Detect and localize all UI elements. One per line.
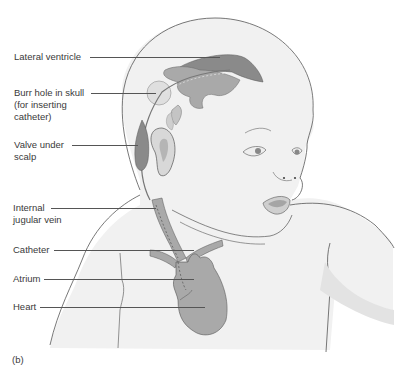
panel-label: (b) [12,354,24,366]
label-jugular-2: jugular vein [13,214,62,226]
label-burr-hole-2: (for inserting [14,99,67,111]
leader-atrium [44,279,194,280]
label-lateral-ventricle: Lateral ventricle [14,51,81,63]
leader-valve [72,145,138,146]
label-burr-hole-1: Burr hole in skull [14,87,84,99]
leader-lateral-ventricle [90,57,220,58]
label-catheter: Catheter [13,244,49,256]
label-valve-2: scalp [14,151,36,163]
label-jugular-1: Internal [13,202,45,214]
leader-burr-hole [91,93,156,94]
shunt-diagram: Lateral ventricle Burr hole in skull (fo… [0,0,405,374]
label-valve-1: Valve under [14,139,64,151]
leader-jugular [51,208,156,209]
label-burr-hole-3: catheter) [14,111,52,123]
leader-catheter [54,250,194,251]
label-heart: Heart [13,301,36,313]
label-atrium: Atrium [13,273,40,285]
leader-heart [40,307,205,308]
